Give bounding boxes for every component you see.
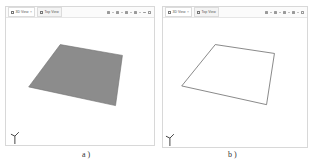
maximize-icon[interactable] [148, 11, 151, 14]
minimize-icon[interactable] [143, 12, 146, 13]
maximize-icon[interactable] [301, 11, 304, 14]
view-toolbar [107, 11, 154, 14]
dropdown-icon[interactable] [121, 12, 123, 13]
close-icon[interactable]: × [187, 10, 189, 14]
view-cube-icon[interactable] [107, 11, 110, 14]
tab-label: Top View [45, 10, 59, 14]
viewport-panel-a: 3D View × Top View [5, 6, 155, 146]
dropdown-icon[interactable] [288, 12, 290, 13]
tab-3d-view[interactable]: 3D View × [165, 7, 192, 17]
filled-plane-shape[interactable] [29, 45, 123, 106]
view-icon [197, 11, 200, 14]
tab-top-view[interactable]: Top View [37, 7, 62, 17]
axis-gizmo-icon [166, 134, 174, 146]
tab-label: 3D View [173, 10, 186, 14]
scene [6, 17, 154, 145]
viewport-panel-b: 3D View × Top View [162, 6, 308, 148]
settings-icon[interactable] [134, 11, 137, 14]
render-icon[interactable] [116, 11, 119, 14]
dropdown-icon[interactable] [270, 12, 272, 13]
view-cube-icon[interactable] [265, 11, 268, 14]
dropdown-icon[interactable] [279, 12, 281, 13]
view-icon [11, 11, 14, 14]
axis-gizmo-icon [11, 132, 19, 144]
caption-a: a ) [82, 150, 90, 159]
navigate-icon[interactable] [283, 11, 286, 14]
dropdown-icon[interactable] [139, 12, 141, 13]
view-icon [40, 11, 43, 14]
outline-plane-shape[interactable] [182, 45, 275, 105]
tab-label: Top View [202, 10, 216, 14]
view-toolbar [265, 11, 307, 14]
view-icon [168, 11, 171, 14]
3d-viewport[interactable] [6, 17, 154, 145]
dropdown-icon[interactable] [130, 12, 132, 13]
scene [163, 17, 307, 147]
close-icon[interactable]: × [30, 10, 32, 14]
dropdown-icon[interactable] [112, 12, 114, 13]
settings-icon[interactable] [292, 11, 295, 14]
tab-3d-view[interactable]: 3D View × [8, 7, 35, 17]
render-icon[interactable] [274, 11, 277, 14]
navigate-icon[interactable] [125, 11, 128, 14]
dropdown-icon[interactable] [297, 12, 299, 13]
tab-label: 3D View [16, 10, 29, 14]
tab-top-view[interactable]: Top View [194, 7, 219, 17]
3d-viewport[interactable] [163, 17, 307, 147]
caption-b: b ) [228, 150, 237, 159]
